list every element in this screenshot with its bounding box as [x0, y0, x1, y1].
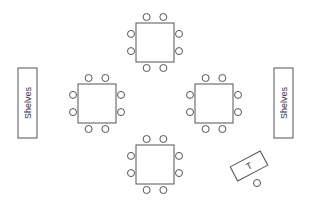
chair-icon	[187, 109, 194, 116]
teacher-chair-icon	[254, 180, 261, 187]
shelf-label: Shelves	[279, 86, 289, 119]
chair-icon	[176, 170, 183, 177]
chair-icon	[143, 187, 150, 194]
table-bottom	[128, 136, 183, 194]
chair-icon	[118, 91, 125, 98]
tables-layer	[70, 14, 242, 194]
table-top	[128, 14, 183, 72]
chair-icon	[128, 152, 135, 159]
chair-icon	[70, 91, 77, 98]
shelves-layer: ShelvesShelves	[18, 68, 293, 138]
table-left	[70, 75, 125, 133]
chair-icon	[143, 136, 150, 143]
chair-icon	[70, 109, 77, 116]
table-rect	[195, 84, 233, 123]
chair-icon	[202, 75, 209, 82]
chair-icon	[128, 30, 135, 37]
chair-icon	[219, 75, 226, 82]
classroom-layout-diagram: ShelvesShelves T	[0, 0, 312, 206]
chair-icon	[176, 152, 183, 159]
chair-icon	[235, 91, 242, 98]
chair-icon	[202, 126, 209, 133]
table-rect	[78, 84, 116, 123]
table-rect	[136, 145, 174, 184]
chair-icon	[219, 126, 226, 133]
shelves-left: Shelves	[18, 68, 37, 138]
chair-icon	[160, 187, 167, 194]
chair-icon	[176, 30, 183, 37]
teacher-desk-group: T	[230, 151, 268, 187]
chair-icon	[85, 75, 92, 82]
chair-icon	[235, 109, 242, 116]
teacher-desk: T	[230, 151, 268, 181]
shelves-right: Shelves	[274, 68, 293, 138]
chair-icon	[128, 170, 135, 177]
chair-icon	[102, 126, 109, 133]
table-rect	[136, 23, 174, 62]
chair-icon	[85, 126, 92, 133]
shelf-label: Shelves	[23, 86, 33, 119]
chair-icon	[160, 14, 167, 21]
chair-icon	[118, 109, 125, 116]
chair-icon	[160, 136, 167, 143]
chair-icon	[102, 75, 109, 82]
chair-icon	[143, 14, 150, 21]
chair-icon	[128, 48, 135, 55]
chair-icon	[187, 91, 194, 98]
chair-icon	[143, 65, 150, 72]
chair-icon	[160, 65, 167, 72]
chair-icon	[176, 48, 183, 55]
table-right	[187, 75, 242, 133]
